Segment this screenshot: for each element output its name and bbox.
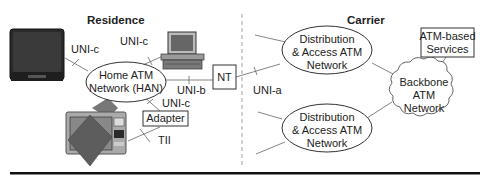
svg-text:Network: Network <box>307 59 348 71</box>
atm-network-diagram: Residence Carrier <box>0 0 486 181</box>
svg-text:Network: Network <box>307 137 348 149</box>
link-stub <box>256 142 285 154</box>
svg-text:& Access ATM: & Access ATM <box>292 46 362 58</box>
svg-text:Network: Network <box>404 102 445 114</box>
interface-label-han-nt: UNI-b <box>177 84 206 96</box>
svg-text:ATM-based: ATM-based <box>419 30 475 42</box>
svg-text:Network (HAN): Network (HAN) <box>89 82 163 94</box>
svg-text:NT: NT <box>217 71 232 83</box>
svg-text:Adapter: Adapter <box>146 112 185 124</box>
link-nt-carrier <box>236 64 280 77</box>
bottom-rule <box>10 172 480 175</box>
svg-text:Services: Services <box>426 43 469 55</box>
svg-text:Home ATM: Home ATM <box>99 69 153 81</box>
backbone-atm-network-cloud: Backbone ATM Network <box>389 57 453 116</box>
television-icon <box>10 29 64 81</box>
interface-label-han-adapter: UNI-c <box>162 97 191 109</box>
nt-node: NT <box>213 65 236 89</box>
svg-text:Backbone: Backbone <box>400 76 449 88</box>
interface-label-pc-han: UNI-c <box>120 35 149 47</box>
computer-icon <box>161 32 204 69</box>
svg-text:& Access ATM: & Access ATM <box>292 124 362 136</box>
link-tv-han <box>65 58 88 71</box>
set-top-device-icon <box>66 98 126 166</box>
interface-label-nt-carrier: UNI-a <box>253 84 283 96</box>
region-label-residence: Residence <box>87 14 145 26</box>
interface-label-adapter-device: TII <box>158 134 171 146</box>
adapter-node: Adapter <box>143 111 188 126</box>
svg-text:Distribution: Distribution <box>299 111 354 123</box>
link-stub <box>258 112 282 119</box>
distribution-access-network-top: Distribution & Access ATM Network <box>282 26 372 74</box>
svg-text:Distribution: Distribution <box>299 33 354 45</box>
svg-text:ATM: ATM <box>413 89 435 101</box>
link-dist-top-backbone <box>372 63 393 74</box>
distribution-access-network-bottom: Distribution & Access ATM Network <box>282 104 372 152</box>
interface-label-tv-han: UNI-c <box>71 43 100 55</box>
atm-based-services-node: ATM-based Services <box>419 28 475 57</box>
region-label-carrier: Carrier <box>347 14 385 26</box>
home-atm-network-node: Home ATM Network (HAN) <box>86 62 166 102</box>
link-dist-bottom-backbone <box>367 102 392 118</box>
